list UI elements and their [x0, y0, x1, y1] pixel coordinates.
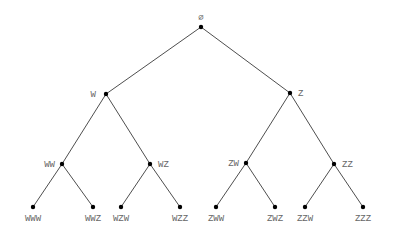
node-label-wzz: WZZ: [172, 214, 189, 224]
node-label-zzz: ZZZ: [355, 214, 372, 224]
node-label-zw: ZW: [228, 159, 239, 169]
edge-root-w: [106, 27, 201, 94]
node-zzw: [303, 205, 307, 209]
node-wzz: [178, 205, 182, 209]
edge-zz-zzz: [334, 164, 363, 207]
edge-zw-zwz: [246, 163, 275, 207]
node-wwz: [91, 205, 95, 209]
node-zww: [214, 205, 218, 209]
edge-ww-www: [33, 164, 62, 207]
node-label-ww: WW: [44, 160, 55, 170]
edge-z-zw: [246, 93, 290, 163]
node-zz: [332, 162, 336, 166]
node-zw: [244, 161, 248, 165]
node-wzw: [119, 205, 123, 209]
node-www: [31, 205, 35, 209]
tree-edges: [33, 27, 363, 207]
node-wz: [148, 162, 152, 166]
edge-w-wz: [106, 94, 150, 164]
node-label-z: Z: [298, 89, 304, 99]
edge-wz-wzz: [150, 164, 180, 207]
edge-ww-wwz: [62, 164, 93, 207]
edge-root-z: [201, 27, 290, 93]
edge-w-ww: [62, 94, 106, 164]
node-label-wwz: WWZ: [85, 214, 102, 224]
edge-zz-zzw: [305, 164, 334, 207]
edge-wz-wzw: [121, 164, 150, 207]
node-root: [199, 25, 203, 29]
tree-labels: ∅WZWWWZZWZZWWWWWZWZWWZZZWWZWZZZWZZZ: [25, 13, 372, 224]
edge-zw-zww: [216, 163, 246, 207]
node-label-wzw: WZW: [113, 214, 130, 224]
edge-z-zz: [290, 93, 334, 164]
node-zwz: [273, 205, 277, 209]
node-label-www: WWW: [25, 214, 42, 224]
node-label-zwz: ZWZ: [267, 214, 284, 224]
node-ww: [60, 162, 64, 166]
node-label-zz: ZZ: [342, 160, 353, 170]
node-zzz: [361, 205, 365, 209]
node-label-zww: ZWW: [208, 214, 225, 224]
node-label-root: ∅: [198, 13, 204, 23]
node-label-zzw: ZZW: [297, 214, 314, 224]
node-z: [288, 91, 292, 95]
node-w: [104, 92, 108, 96]
binary-tree-diagram: ∅WZWWWZZWZZWWWWWZWZWWZZZWWZWZZZWZZZ: [0, 0, 393, 238]
tree-nodes: [31, 25, 365, 209]
node-label-w: W: [91, 90, 97, 100]
node-label-wz: WZ: [158, 160, 169, 170]
